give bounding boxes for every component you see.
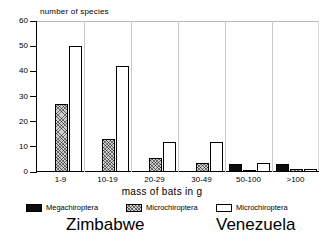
caption-venezuela: Venezuela — [216, 215, 295, 235]
legend-swatch-icon — [216, 204, 232, 212]
bar — [116, 66, 129, 172]
legend-label: Megachiroptera — [46, 204, 98, 212]
bar-group — [84, 21, 131, 172]
legend-swatch-icon — [126, 204, 142, 212]
bar — [290, 169, 303, 172]
y-axis-tick-label: 30 — [19, 93, 28, 101]
bar — [163, 142, 176, 172]
y-axis-title: number of species — [40, 7, 109, 16]
y-axis-tick-label: 20 — [19, 118, 28, 126]
y-axis-tick — [30, 71, 37, 72]
bar-group — [272, 21, 319, 172]
y-axis-tick-label: 40 — [19, 67, 28, 75]
legend-swatch-icon — [26, 204, 42, 212]
legend-entry: Microchiroptera — [126, 204, 198, 212]
x-axis-tick-label: 1-9 — [37, 175, 84, 184]
bar-group — [178, 21, 225, 172]
y-axis-tick — [30, 96, 37, 97]
legend-entry: Microchiroptera — [216, 204, 288, 212]
legend-label: Microchiroptera — [146, 204, 198, 212]
bar — [276, 164, 289, 172]
bar — [210, 142, 223, 172]
bar — [229, 164, 242, 172]
x-axis-tick-label: 50-100 — [225, 175, 272, 184]
y-axis-tick — [30, 121, 37, 122]
y-axis-tick — [30, 21, 37, 22]
y-axis-tick — [30, 172, 37, 173]
y-axis-tick — [30, 146, 37, 147]
y-axis-tick-label: 10 — [19, 143, 28, 151]
y-axis-tick — [30, 46, 37, 47]
legend-entry: Megachiroptera — [26, 204, 98, 212]
bar — [55, 104, 68, 172]
x-axis-tick-label: 30-49 — [178, 175, 225, 184]
caption-zimbabwe: Zimbabwe — [66, 215, 144, 235]
bar-group — [37, 21, 84, 172]
legend-label: Microchiroptera — [236, 204, 288, 212]
y-axis-tick-label: 60 — [19, 17, 28, 25]
bar — [257, 163, 270, 172]
bar — [69, 46, 82, 172]
y-axis-tick-label: 50 — [19, 42, 28, 50]
bar — [102, 139, 115, 172]
bar — [196, 163, 209, 172]
y-axis-tick-label: 0 — [24, 168, 28, 176]
bat-species-bar-chart: number of species 0102030405060 1-910-19… — [0, 0, 324, 243]
x-axis-title: mass of bats in g — [0, 186, 324, 197]
bar — [149, 158, 162, 172]
bar-group — [225, 21, 272, 172]
bar — [243, 170, 256, 172]
bar — [304, 169, 317, 172]
bars-layer — [37, 21, 319, 172]
x-axis-tick-label: 20-29 — [131, 175, 178, 184]
bar-group — [131, 21, 178, 172]
x-axis-tick-label: 10-19 — [84, 175, 131, 184]
x-axis-tick-label: >100 — [272, 175, 319, 184]
